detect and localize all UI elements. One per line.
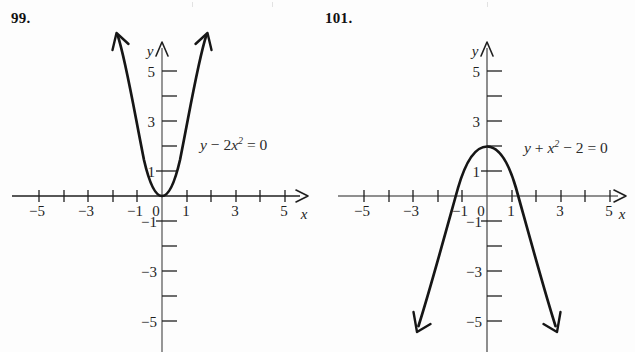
x-axis-label-101: x — [618, 206, 626, 222]
x-tick-label: −5 — [354, 203, 370, 219]
y-tick-label: −5 — [466, 314, 482, 330]
equation-rhs: 0 — [260, 136, 268, 153]
equation-op: − — [211, 136, 220, 153]
y-tick-label: 3 — [148, 114, 156, 130]
y-tick-label: −3 — [466, 264, 482, 280]
equation-rhs: 0 — [600, 139, 608, 156]
x-tick-labels-99: −5 −3 −1 0 1 3 5 — [29, 203, 288, 219]
equation-label-101: y + x2 − 2 = 0 — [524, 139, 608, 157]
equation-op-plus: + — [535, 139, 544, 156]
x-tick-label: −5 — [29, 203, 45, 219]
equation-lhs-var: y — [200, 136, 207, 153]
equation-var: x — [231, 136, 238, 153]
y-axis-101 — [481, 42, 493, 352]
figure-page: 99. — [0, 0, 635, 352]
problem-101: 101. — [318, 0, 635, 352]
equation-op-minus: − — [563, 139, 572, 156]
y-axis-label-99: y — [145, 43, 154, 59]
y-tick-label: 3 — [473, 114, 481, 130]
x-axis-label-99: x — [300, 206, 308, 222]
y-tick-label: 1 — [473, 164, 481, 180]
y-tick-label: 5 — [148, 64, 156, 80]
y-tick-labels-99: 5 3 1 −1 −3 −5 — [141, 64, 157, 330]
graph-99: −5 −3 −1 0 1 3 5 5 3 1 −1 −3 −5 x y — [0, 0, 318, 352]
equation-constant: 2 — [576, 139, 584, 156]
y-tick-labels-101: 5 3 1 −1 −3 −5 — [466, 64, 482, 330]
problem-99: 99. — [0, 0, 318, 352]
x-axis-101 — [338, 190, 626, 202]
x-tick-label: 3 — [231, 203, 239, 219]
x-tick-label: 3 — [556, 203, 564, 219]
equation-equals: = — [247, 136, 256, 153]
y-tick-label: 5 — [473, 64, 481, 80]
x-tick-label: 5 — [280, 203, 288, 219]
x-tick-label: 5 — [605, 203, 613, 219]
x-tick-labels-101: −5 −3 −1 0 1 3 5 — [354, 203, 613, 219]
x-tick-label: −3 — [78, 203, 94, 219]
equation-equals: = — [587, 139, 596, 156]
y-tick-label: −3 — [141, 264, 157, 280]
y-tick-label: −5 — [141, 314, 157, 330]
equation-coefficient: 2 — [223, 136, 231, 153]
x-tick-label: −3 — [403, 203, 419, 219]
x-tick-label: 1 — [182, 203, 190, 219]
y-axis-label-101: y — [470, 43, 479, 59]
equation-label-99: y − 2x2 = 0 — [200, 136, 267, 154]
graph-101: −5 −3 −1 0 1 3 5 5 3 1 −1 −3 −5 x y — [318, 0, 635, 352]
y-tick-label: −1 — [141, 214, 157, 230]
x-tick-label: 1 — [507, 203, 515, 219]
equation-lhs-var: y — [524, 139, 531, 156]
y-tick-label: −1 — [466, 214, 482, 230]
